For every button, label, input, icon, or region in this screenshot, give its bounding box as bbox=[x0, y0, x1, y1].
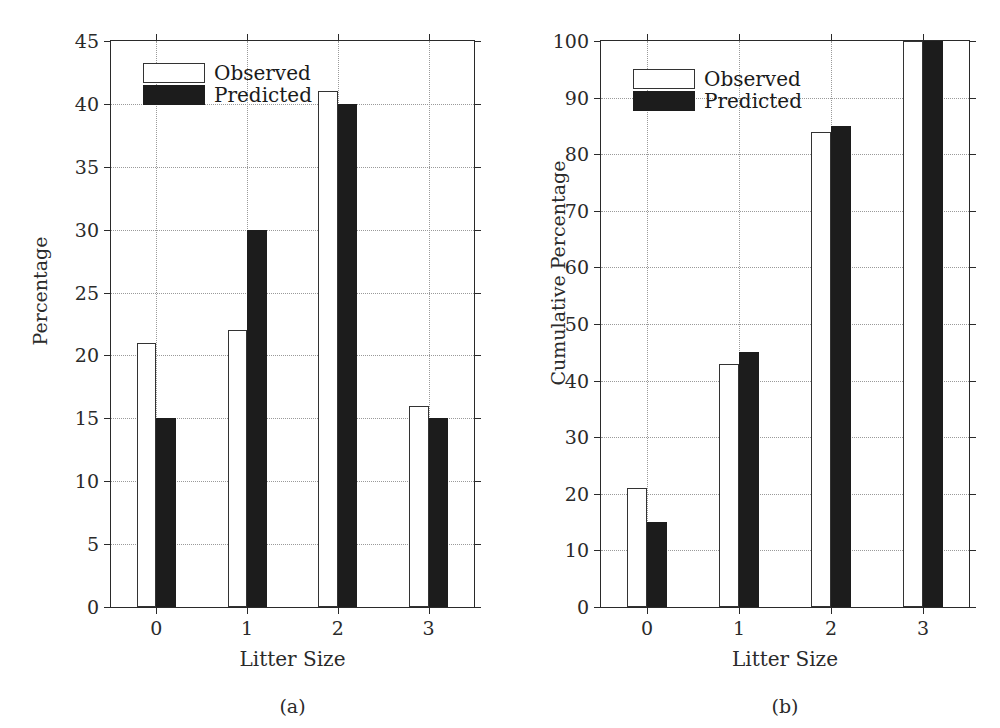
y-axis-tick-label: 40 bbox=[75, 93, 99, 115]
y-axis-tick bbox=[104, 104, 111, 105]
x-axis-tick-label: 2 bbox=[825, 617, 837, 639]
x-axis-tick-label: 3 bbox=[423, 617, 435, 639]
legend-item-observed: Observed bbox=[633, 69, 802, 89]
legend-swatch-predicted-icon bbox=[143, 85, 205, 105]
x-axis-tick bbox=[429, 607, 430, 614]
y-axis-tick-label: 10 bbox=[75, 470, 99, 492]
y-axis-tick-right bbox=[474, 355, 481, 356]
y-axis-tick-right bbox=[474, 167, 481, 168]
y-axis-tick-right bbox=[969, 324, 976, 325]
bar-observed bbox=[228, 330, 248, 607]
y-axis-tick-right bbox=[969, 494, 976, 495]
legend-item-predicted: Predicted bbox=[143, 85, 312, 105]
x-axis-tick-label: 2 bbox=[332, 617, 344, 639]
y-axis-tick-right bbox=[969, 607, 976, 608]
x-axis-tick-top bbox=[338, 34, 339, 41]
x-axis-tick-top bbox=[739, 34, 740, 41]
bar-observed bbox=[137, 343, 157, 607]
y-axis-tick bbox=[104, 418, 111, 419]
legend-label-observed: Observed bbox=[704, 69, 801, 89]
x-axis-tick bbox=[156, 607, 157, 614]
y-axis-tick bbox=[104, 355, 111, 356]
bar-observed bbox=[811, 132, 831, 607]
y-axis-tick bbox=[594, 267, 601, 268]
y-axis-tick-label: 15 bbox=[75, 407, 99, 429]
x-axis-tick bbox=[831, 607, 832, 614]
y-axis-tick bbox=[594, 154, 601, 155]
legend-label-predicted: Predicted bbox=[214, 85, 312, 105]
y-axis-tick-right bbox=[474, 544, 481, 545]
y-axis-tick bbox=[594, 41, 601, 42]
legend-swatch-observed-icon bbox=[633, 69, 695, 89]
chart-panel-b: 0102030405060708090100 0123 Observed Pre… bbox=[500, 0, 1000, 728]
panel-caption-b: (b) bbox=[601, 695, 969, 717]
y-axis-tick-right bbox=[969, 98, 976, 99]
bar-observed bbox=[409, 406, 429, 607]
y-axis-tick bbox=[594, 607, 601, 608]
gridline-horizontal bbox=[111, 230, 474, 231]
bar-predicted bbox=[831, 126, 851, 607]
x-axis-tick-label: 1 bbox=[733, 617, 745, 639]
x-axis-tick-top bbox=[247, 34, 248, 41]
y-axis-tick bbox=[594, 211, 601, 212]
bar-predicted bbox=[429, 418, 449, 607]
plot-area-b: 0102030405060708090100 0123 Observed Pre… bbox=[600, 40, 970, 608]
bar-predicted bbox=[247, 230, 267, 607]
y-axis-tick-label: 0 bbox=[87, 596, 99, 618]
y-axis-tick bbox=[104, 41, 111, 42]
gridline-horizontal bbox=[111, 355, 474, 356]
y-axis-title-b: Cumulative Percentage bbox=[547, 153, 569, 393]
gridline-horizontal bbox=[111, 167, 474, 168]
y-axis-tick bbox=[594, 437, 601, 438]
legend-label-observed: Observed bbox=[214, 63, 311, 83]
y-axis-tick-label: 90 bbox=[565, 87, 589, 109]
y-axis-tick bbox=[104, 293, 111, 294]
x-axis-tick bbox=[923, 607, 924, 614]
bar-predicted bbox=[923, 41, 943, 607]
bar-observed bbox=[318, 91, 338, 607]
y-axis-tick-right bbox=[474, 481, 481, 482]
y-axis-tick-label: 100 bbox=[553, 30, 589, 52]
plot-area-a: 051015202530354045 0123 Observed Predict… bbox=[110, 40, 475, 608]
gridline-horizontal bbox=[111, 293, 474, 294]
y-axis-tick bbox=[104, 544, 111, 545]
y-axis-tick-right bbox=[474, 607, 481, 608]
y-axis-tick-label: 5 bbox=[87, 533, 99, 555]
y-axis-tick-right bbox=[474, 104, 481, 105]
y-axis-title-a: Percentage bbox=[29, 221, 51, 361]
x-axis-tick-label: 0 bbox=[150, 617, 162, 639]
y-axis-tick bbox=[104, 481, 111, 482]
bar-observed bbox=[903, 41, 923, 607]
x-axis-tick bbox=[647, 607, 648, 614]
y-axis-tick-right bbox=[474, 293, 481, 294]
y-axis-tick-label: 45 bbox=[75, 30, 99, 52]
x-axis-tick-top bbox=[429, 34, 430, 41]
chart-panel-a: 051015202530354045 0123 Observed Predict… bbox=[0, 0, 500, 728]
legend-swatch-observed-icon bbox=[143, 63, 205, 83]
y-axis-tick-right bbox=[969, 154, 976, 155]
legend-label-predicted: Predicted bbox=[704, 91, 802, 111]
y-axis-tick bbox=[104, 607, 111, 608]
x-axis-title-b: Litter Size bbox=[601, 647, 969, 671]
bar-predicted bbox=[338, 104, 358, 607]
x-axis-title-a: Litter Size bbox=[111, 647, 474, 671]
bar-observed bbox=[627, 488, 647, 607]
y-axis-tick bbox=[594, 550, 601, 551]
y-axis-tick bbox=[594, 381, 601, 382]
y-axis-tick-right bbox=[474, 418, 481, 419]
panel-caption-a: (a) bbox=[111, 695, 474, 717]
y-axis-tick-label: 0 bbox=[577, 596, 589, 618]
y-axis-tick-label: 30 bbox=[75, 219, 99, 241]
x-axis-tick bbox=[338, 607, 339, 614]
y-axis-tick-right bbox=[474, 230, 481, 231]
y-axis-tick bbox=[594, 324, 601, 325]
y-axis-tick-label: 25 bbox=[75, 282, 99, 304]
y-axis-tick-right bbox=[969, 211, 976, 212]
bar-observed bbox=[719, 364, 739, 607]
x-axis-tick-top bbox=[923, 34, 924, 41]
y-axis-tick-right bbox=[969, 550, 976, 551]
figure-container: 051015202530354045 0123 Observed Predict… bbox=[0, 0, 1000, 728]
y-axis-tick-right bbox=[969, 437, 976, 438]
x-axis-tick-top bbox=[156, 34, 157, 41]
bar-predicted bbox=[156, 418, 176, 607]
